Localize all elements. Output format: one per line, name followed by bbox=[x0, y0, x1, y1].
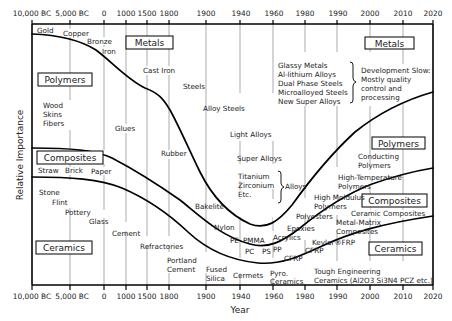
tick-label: 1900 bbox=[197, 292, 216, 301]
metals-label: Metals bbox=[135, 38, 165, 48]
annotation: Skins bbox=[43, 110, 62, 119]
tick-label: 1000 bbox=[117, 9, 136, 18]
tick-label: 1980 bbox=[296, 292, 315, 301]
annotation: Fused bbox=[206, 265, 227, 274]
annotation: Cement bbox=[112, 229, 140, 238]
annotation: Mostly quality bbox=[361, 75, 412, 84]
annotation: Glass bbox=[89, 217, 109, 226]
tick-label: 10,000 BC bbox=[13, 292, 51, 301]
annotation: Stone bbox=[39, 188, 60, 197]
annotation: CFRP bbox=[305, 246, 324, 255]
tick-label: 10,000 BC bbox=[13, 9, 51, 18]
annotation: CFRP bbox=[284, 254, 303, 263]
annotation: PMMA bbox=[243, 236, 265, 245]
annotation: Ceramic Composites bbox=[351, 209, 425, 218]
annotation: Polymers bbox=[314, 202, 347, 211]
annotation: Epoxies bbox=[287, 224, 315, 233]
annotation: Glassy Metals bbox=[278, 61, 328, 70]
annotation: Zirconium bbox=[238, 181, 274, 190]
annotation: Polyesters bbox=[296, 212, 333, 221]
annotation: Light Alloys bbox=[230, 130, 272, 139]
x-axis-title: Year bbox=[229, 305, 249, 315]
bottom-tick-labels: 10,000 BC 5,000 BC 0 1000 1500 1800 1900… bbox=[13, 292, 443, 301]
annotation: Bakelite bbox=[195, 202, 224, 211]
tick-label: 1000 bbox=[117, 292, 136, 301]
annotation: Iron bbox=[102, 47, 116, 56]
annotation: Acrylics bbox=[273, 233, 301, 242]
annotation: Flint bbox=[52, 198, 68, 207]
annotation: Pottery bbox=[65, 208, 91, 217]
annotation: Microalloyed Steels bbox=[278, 88, 348, 97]
annotation: Kevlar®FRP bbox=[312, 238, 356, 247]
annotation: Composites bbox=[336, 227, 378, 236]
annotation: PP bbox=[273, 245, 282, 254]
tick-label: 1980 bbox=[296, 9, 315, 18]
annotation: Silica bbox=[206, 274, 225, 283]
annotation: Super Alloys bbox=[237, 154, 282, 163]
annotation: Fibers bbox=[43, 119, 65, 128]
polymers-label: Polymers bbox=[44, 75, 85, 85]
annotation: Steels bbox=[183, 82, 205, 91]
tick-label: 1990 bbox=[329, 292, 348, 301]
ceramics-label: Ceramics bbox=[43, 243, 85, 253]
annotation: Dual Phase Steels bbox=[278, 79, 343, 88]
tick-label: 1900 bbox=[197, 9, 216, 18]
tick-label: 1990 bbox=[329, 9, 348, 18]
annotation: Titanium bbox=[237, 172, 270, 181]
tick-label: 1800 bbox=[160, 9, 179, 18]
tick-label: 1940 bbox=[232, 292, 251, 301]
annotation: Refractories bbox=[140, 242, 184, 251]
annotation: Straw bbox=[38, 166, 59, 175]
composites-label: Composites bbox=[44, 153, 97, 163]
annotation: Etc. bbox=[238, 190, 252, 199]
annotation: Rubber bbox=[161, 149, 187, 158]
annotation: Polymers bbox=[338, 182, 371, 191]
annotation: Portland bbox=[167, 256, 197, 265]
tick-label: 1960 bbox=[265, 9, 284, 18]
annotation: Alloy Steels bbox=[203, 104, 245, 113]
annotation: PE bbox=[230, 236, 239, 245]
metals-label: Metals bbox=[375, 39, 405, 49]
annotation: PC bbox=[245, 247, 254, 256]
polymers-label: Polymers bbox=[378, 139, 419, 149]
top-tick-labels: 10,000 BC 5,000 BC 0 1000 1500 1800 1900… bbox=[13, 9, 443, 18]
tick-label: 0 bbox=[102, 292, 107, 301]
tick-label: 5,000 BC bbox=[55, 292, 89, 301]
annotation: control and bbox=[361, 84, 402, 93]
annotation: Conducting bbox=[358, 152, 399, 161]
annotation: Paper bbox=[91, 167, 111, 176]
tick-label: 2010 bbox=[394, 292, 413, 301]
annotation: Development Slow: bbox=[361, 66, 431, 75]
tick-label: 2000 bbox=[361, 9, 380, 18]
annotation: Copper bbox=[63, 29, 89, 38]
annotation: Wood bbox=[43, 101, 63, 110]
annotation: PS bbox=[262, 247, 271, 256]
annotation: Bronze bbox=[87, 37, 112, 46]
tick-label: 1940 bbox=[232, 9, 251, 18]
y-axis-title: Relative Importance bbox=[15, 109, 25, 200]
annotation: High Moldulus bbox=[314, 193, 365, 202]
tick-label: 2020 bbox=[424, 292, 443, 301]
annotation: High-Temperature bbox=[338, 173, 403, 182]
tick-label: 1500 bbox=[138, 9, 157, 18]
annotation: Gold bbox=[37, 26, 54, 35]
composites-label: Composites bbox=[368, 196, 421, 206]
annotation: Brick bbox=[65, 166, 84, 175]
annotation: Cement bbox=[167, 265, 195, 274]
tick-label: 2020 bbox=[424, 9, 443, 18]
annotation: New Super Alloys bbox=[278, 97, 341, 106]
annotation: Cermets bbox=[233, 271, 264, 280]
annotation: Nylon bbox=[214, 223, 235, 232]
annotation: processing bbox=[361, 93, 400, 102]
tick-label: 1500 bbox=[138, 292, 157, 301]
materials-evolution-chart: 10,000 BC 5,000 BC 0 1000 1500 1800 1900… bbox=[0, 0, 452, 321]
tick-label: 2000 bbox=[361, 292, 380, 301]
annotation: Cast Iron bbox=[143, 66, 175, 75]
annotation: Glues bbox=[115, 124, 136, 133]
annotation: Al-lithium Alloys bbox=[278, 70, 336, 79]
annotation: Ceramics (Al2O3 Si3N4 PCZ etc.) bbox=[314, 276, 433, 285]
tick-label: 2010 bbox=[394, 9, 413, 18]
annotation: Tough Engineering bbox=[313, 267, 381, 276]
annotation: Polymers bbox=[358, 161, 391, 170]
annotation: Metal-Matrix bbox=[336, 218, 382, 227]
